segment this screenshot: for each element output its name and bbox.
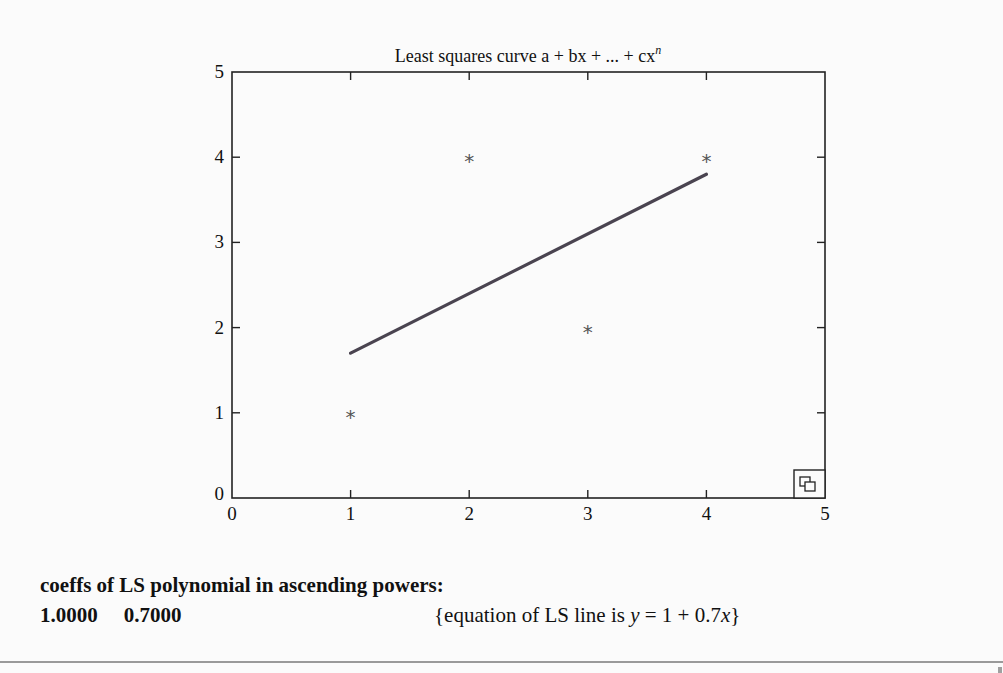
chart-title: Least squares curve a + bx + ... + cxn <box>395 43 661 66</box>
x-tick-label: 1 <box>346 503 356 524</box>
copy-icon[interactable] <box>794 470 825 498</box>
coefficient-a: 1.0000 <box>40 603 98 627</box>
data-point-marker: * <box>346 405 356 429</box>
x-tick-label: 0 <box>227 503 237 524</box>
y-tick-label: 1 <box>215 402 225 423</box>
plot-frame <box>232 72 825 498</box>
x-tick-label: 5 <box>820 503 830 524</box>
coefficient-b: 0.7000 <box>124 603 182 627</box>
data-point-marker: * <box>701 149 711 173</box>
resize-handle[interactable] <box>998 667 1002 673</box>
x-tick-label: 4 <box>702 503 712 524</box>
x-tick-label: 2 <box>464 503 474 524</box>
equation-note: {equation of LS line is y = 1 + 0.7x} <box>434 603 740 628</box>
least-squares-line <box>351 174 707 353</box>
coefficient-values: 1.00000.7000 <box>40 603 208 628</box>
data-points: **** <box>346 149 712 429</box>
y-tick-label: 3 <box>215 231 225 252</box>
axis-tick-labels: 012345012345 <box>215 61 830 524</box>
y-tick-label: 4 <box>215 146 225 167</box>
coefficients-heading: coeffs of LS polynomial in ascending pow… <box>40 573 444 598</box>
axis-ticks <box>232 72 825 498</box>
x-tick-label: 3 <box>583 503 593 524</box>
chart: Least squares curve a + bx + ... + cxn 0… <box>0 0 1003 560</box>
y-tick-label: 5 <box>215 61 225 82</box>
divider <box>0 661 1003 663</box>
y-tick-label: 2 <box>215 317 225 338</box>
y-tick-label: 0 <box>215 483 225 504</box>
data-point-marker: * <box>464 149 474 173</box>
data-point-marker: * <box>583 320 593 344</box>
